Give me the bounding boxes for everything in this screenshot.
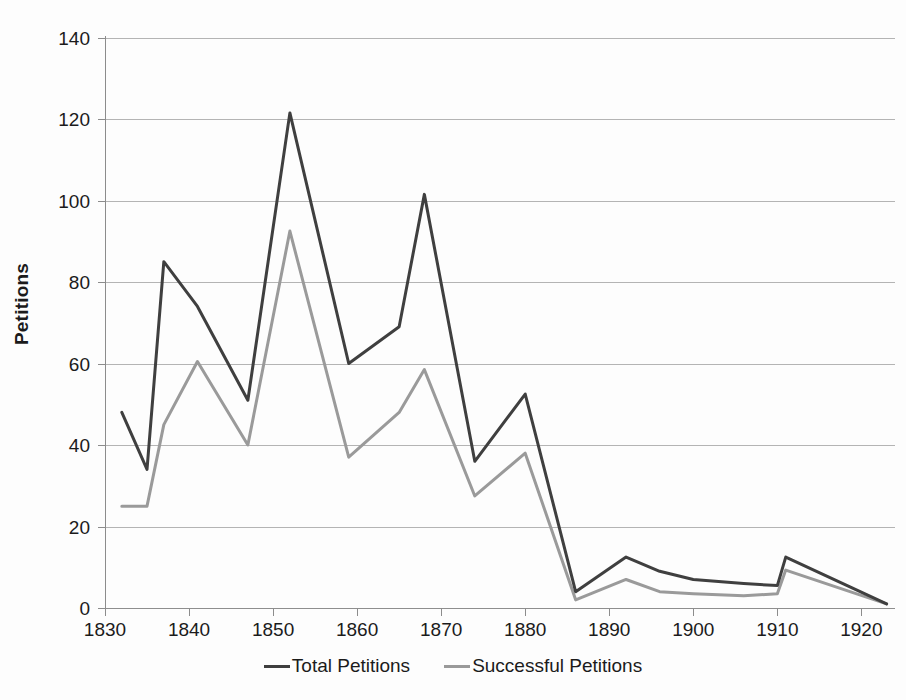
petitions-line-chart: Petitions 020406080100120140 Total Petit…	[0, 0, 906, 700]
legend-line-swatch-icon	[444, 665, 470, 668]
y-tick-mark-100	[98, 201, 106, 202]
x-tick-mark-1830	[105, 608, 106, 616]
x-tick-mark-1920	[861, 608, 862, 616]
x-tick-mark-1890	[609, 608, 610, 616]
legend-item-label: Successful Petitions	[472, 655, 642, 677]
x-tick-label-1900: 1900	[653, 620, 733, 639]
y-tick-mark-120	[98, 119, 106, 120]
y-tick-mark-80	[98, 282, 106, 283]
legend-item-successful-petitions[interactable]: Successful Petitions	[444, 655, 642, 677]
x-tick-label-1910: 1910	[737, 620, 817, 639]
legend-line-swatch-icon	[264, 665, 290, 668]
y-tick-mark-20	[98, 527, 106, 528]
series-line-successful-petitions	[122, 231, 887, 604]
chart-legend: Total PetitionsSuccessful Petitions	[0, 655, 906, 677]
x-tick-label-1880: 1880	[485, 620, 565, 639]
y-tick-mark-140	[98, 38, 106, 39]
legend-item-label: Total Petitions	[292, 655, 410, 677]
series-line-total-petitions	[122, 113, 887, 604]
x-tick-mark-1900	[693, 608, 694, 616]
x-tick-mark-1870	[441, 608, 442, 616]
y-tick-mark-40	[98, 445, 106, 446]
y-tick-mark-60	[98, 364, 106, 365]
legend-item-total-petitions[interactable]: Total Petitions	[264, 655, 410, 677]
x-tick-label-1890: 1890	[569, 620, 649, 639]
x-tick-label-1870: 1870	[401, 620, 481, 639]
x-tick-label-1840: 1840	[149, 620, 229, 639]
series-layer	[0, 0, 906, 700]
x-tick-mark-1860	[357, 608, 358, 616]
x-tick-label-1830: 1830	[65, 620, 145, 639]
x-tick-mark-1910	[777, 608, 778, 616]
x-tick-label-1850: 1850	[233, 620, 313, 639]
x-tick-mark-1840	[189, 608, 190, 616]
x-tick-label-1920: 1920	[821, 620, 901, 639]
x-tick-mark-1850	[273, 608, 274, 616]
x-tick-label-1860: 1860	[317, 620, 397, 639]
x-tick-mark-1880	[525, 608, 526, 616]
